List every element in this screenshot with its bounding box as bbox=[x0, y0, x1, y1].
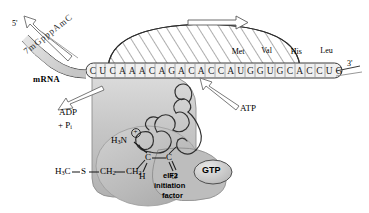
methylene-b-text: CH bbox=[126, 166, 139, 176]
mrna-base: A bbox=[196, 66, 206, 76]
amino-charge-sign: + bbox=[134, 129, 138, 136]
phosphate-text: + P bbox=[58, 120, 70, 130]
mrna-base: A bbox=[137, 66, 147, 76]
mrna-base: C bbox=[314, 66, 324, 76]
atp-input-arrow bbox=[200, 78, 239, 110]
mrna-base: G bbox=[246, 66, 256, 76]
mrna-base: U bbox=[265, 66, 275, 76]
mrna-base: A bbox=[226, 66, 236, 76]
mrna-base: G bbox=[255, 66, 265, 76]
mrna-base: C bbox=[147, 66, 157, 76]
five-prime-label: 5' bbox=[12, 20, 17, 28]
eif2-line2: initiation bbox=[154, 182, 185, 190]
codon-label-val: Val bbox=[261, 47, 272, 55]
phosphate-label: + Pi bbox=[58, 121, 72, 130]
adp-label: ADP bbox=[59, 108, 77, 117]
methylene-a-label: CH2 bbox=[100, 167, 116, 176]
mrna-base: C bbox=[88, 66, 98, 76]
methylene-a-subscript: 2 bbox=[113, 170, 116, 176]
mrna-base: C bbox=[206, 66, 216, 76]
mrna-sequence: CUCAAACAGACACCAUGGUGCACCUG bbox=[88, 64, 344, 78]
mrna-base: A bbox=[157, 66, 167, 76]
mrna-base: U bbox=[324, 66, 334, 76]
amino-n: N bbox=[121, 135, 128, 145]
mrna-base: C bbox=[305, 66, 315, 76]
mrna-base: C bbox=[108, 66, 118, 76]
methyl-group-label: H3C bbox=[55, 167, 71, 176]
mrna-base: C bbox=[285, 66, 295, 76]
mrna-base: U bbox=[236, 66, 246, 76]
eif2-name: eIF2 bbox=[163, 172, 178, 180]
mrna-base: A bbox=[127, 66, 137, 76]
mrna-base: A bbox=[177, 66, 187, 76]
methyl-c: C bbox=[65, 166, 71, 176]
mrna-base: C bbox=[216, 66, 226, 76]
gtp-label: GTP bbox=[202, 166, 221, 175]
eif2-line3: factor bbox=[162, 192, 183, 200]
codon-label-leu: Leu bbox=[320, 47, 332, 55]
mrna-base: G bbox=[275, 66, 285, 76]
methylene-a-text: CH bbox=[100, 166, 113, 176]
phosphate-subscript: i bbox=[70, 124, 72, 130]
figure-canvas: 5' 7mGpppAmC mRNA 3' CUCAAACAGACACCAUGGU… bbox=[0, 0, 369, 213]
codon-label-met: Met bbox=[232, 48, 245, 56]
codon-label-his: His bbox=[291, 48, 302, 56]
three-prime-label: 3' bbox=[347, 60, 352, 68]
mrna-base: C bbox=[186, 66, 196, 76]
mrna-base: A bbox=[295, 66, 305, 76]
sulfur-label: S bbox=[81, 167, 86, 176]
atp-label: ATP bbox=[240, 104, 256, 113]
mrna-base: A bbox=[118, 66, 128, 76]
mrna-label: mRNA bbox=[33, 75, 60, 84]
alpha-carbon-label: C bbox=[145, 153, 151, 162]
mrna-base: G bbox=[167, 66, 177, 76]
mrna-base: G bbox=[334, 66, 344, 76]
mrna-base: U bbox=[98, 66, 108, 76]
amino-group-label: H3N bbox=[111, 136, 127, 145]
carbonyl-carbon-label: C bbox=[166, 153, 172, 162]
alpha-hydrogen-label: H bbox=[139, 172, 146, 181]
